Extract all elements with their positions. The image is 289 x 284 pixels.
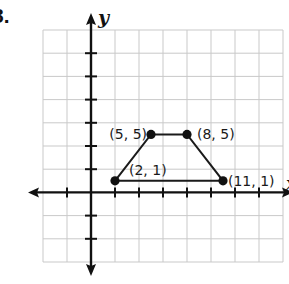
point-label: (5, 5)	[109, 126, 147, 142]
point-label: (11, 1)	[228, 173, 275, 189]
vertex-point	[218, 176, 227, 185]
point-label: (2, 1)	[129, 162, 167, 178]
point-label: (8, 5)	[197, 126, 235, 142]
vertex-point	[182, 130, 191, 139]
coordinate-plane: 8. y x (2, 1)(5, 5)(8, 5)(11, 1)	[0, 0, 289, 284]
vertex-point	[110, 176, 119, 185]
problem-number: 8.	[0, 4, 10, 27]
x-axis-label: x	[285, 172, 289, 194]
y-axis-label: y	[97, 6, 111, 28]
grid	[43, 30, 283, 262]
vertex-point	[146, 130, 155, 139]
